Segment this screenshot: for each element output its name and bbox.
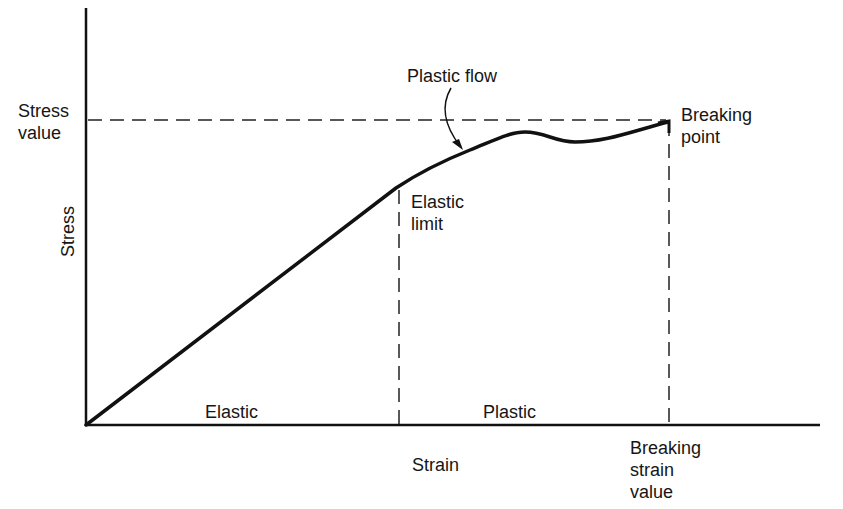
elastic-region-label: Elastic [205, 401, 258, 423]
plastic-flow-arrow [445, 88, 460, 146]
breaking-strain-value-label: Breaking strain value [630, 437, 701, 503]
plastic-region-label: Plastic [483, 401, 536, 423]
stress-strain-curve [86, 122, 668, 425]
plastic-flow-label: Plastic flow [407, 65, 497, 87]
arrowhead-icon [452, 139, 463, 150]
x-axis-label: Strain [412, 454, 459, 476]
y-axis-label: Stress [57, 206, 79, 257]
breaking-point-marker [658, 121, 669, 133]
stress-value-label: Stress value [18, 100, 69, 144]
breaking-point-label: Breaking point [681, 104, 752, 148]
elastic-limit-label: Elastic limit [411, 191, 464, 235]
